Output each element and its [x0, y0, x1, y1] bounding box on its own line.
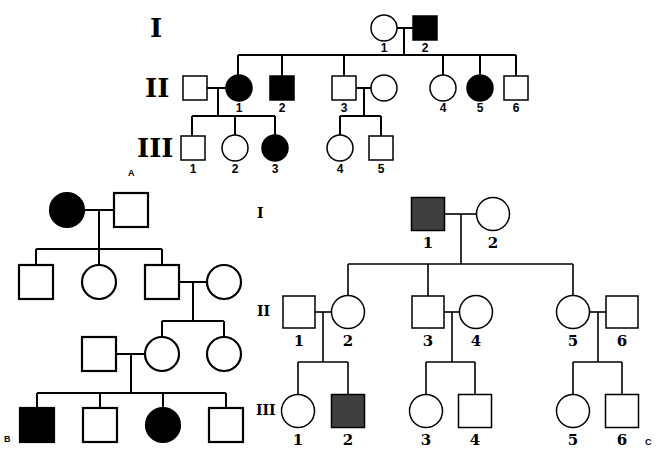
affected-female-circle	[146, 408, 180, 442]
unaffected-male-square	[332, 76, 356, 100]
unaffected-male-square	[183, 76, 207, 100]
individual-number: 6	[513, 101, 520, 115]
affected-male-square	[332, 395, 365, 428]
affected-female-circle	[467, 75, 493, 101]
generation-label: II	[257, 303, 270, 319]
unaffected-female-circle	[371, 15, 397, 41]
affected-female-circle	[50, 193, 84, 227]
unaffected-male-square	[283, 296, 315, 328]
unaffected-male-square	[606, 296, 638, 328]
individual-number: 3	[341, 101, 348, 115]
unaffected-female-circle	[477, 198, 510, 231]
unaffected-female-circle	[410, 395, 443, 428]
unaffected-male-square	[181, 136, 205, 160]
individual-number: 1	[293, 431, 303, 449]
unaffected-male-square	[369, 136, 393, 160]
panel-label: C	[645, 437, 652, 447]
generation-label: III	[256, 402, 276, 418]
unaffected-male-square	[504, 76, 528, 100]
individual-number: 4	[440, 101, 447, 115]
pedigree-panel-c: 12123456123456IIIIIIC	[256, 198, 652, 450]
unaffected-male-square	[83, 408, 117, 442]
individual-number: 5	[477, 101, 484, 115]
unaffected-male-square	[606, 395, 639, 428]
unaffected-female-circle	[430, 75, 456, 101]
generation-label: I	[257, 205, 264, 221]
affected-female-circle	[262, 135, 288, 161]
panel-label: B	[4, 434, 11, 444]
individual-number: 2	[343, 431, 353, 449]
generation-label: II	[145, 73, 169, 103]
individual-number: 1	[423, 234, 433, 252]
unaffected-female-circle	[207, 337, 241, 371]
affected-female-circle	[226, 75, 252, 101]
unaffected-female-circle	[557, 296, 590, 329]
unaffected-female-circle	[82, 265, 116, 299]
individual-number: 3	[423, 332, 433, 350]
unaffected-male-square	[209, 408, 243, 442]
individual-number: 3	[421, 431, 431, 449]
generation-label: III	[137, 133, 174, 163]
individual-number: 2	[488, 234, 498, 252]
unaffected-male-square	[114, 193, 148, 227]
unaffected-female-circle	[557, 395, 590, 428]
individual-number: 2	[343, 332, 353, 350]
unaffected-female-circle	[371, 75, 397, 101]
individual-number: 2	[279, 101, 286, 115]
affected-male-square	[270, 76, 294, 100]
generation-label: I	[150, 13, 162, 43]
unaffected-female-circle	[282, 395, 315, 428]
individual-number: 4	[470, 431, 480, 449]
unaffected-male-square	[145, 265, 179, 299]
individual-number: 1	[381, 41, 388, 55]
individual-number: 1	[236, 101, 243, 115]
individual-number: 2	[422, 41, 429, 55]
individual-number: 3	[272, 162, 279, 176]
affected-male-square	[412, 198, 445, 231]
individual-number: 4	[337, 162, 344, 176]
unaffected-female-circle	[207, 265, 241, 299]
individual-number: 6	[617, 431, 627, 449]
individual-number: 5	[568, 431, 578, 449]
unaffected-female-circle	[460, 296, 493, 329]
unaffected-female-circle	[145, 337, 179, 371]
unaffected-female-circle	[332, 296, 365, 329]
affected-male-square	[20, 408, 54, 442]
panel-label: A	[128, 168, 135, 178]
individual-number: 1	[190, 162, 197, 176]
pedigree-panel-b: B	[4, 193, 243, 444]
unaffected-female-circle	[327, 135, 353, 161]
unaffected-male-square	[19, 265, 53, 299]
unaffected-female-circle	[222, 135, 248, 161]
individual-number: 2	[232, 162, 239, 176]
individual-number: 6	[617, 332, 627, 350]
individual-number: 5	[568, 332, 578, 350]
individual-number: 4	[471, 332, 481, 350]
unaffected-male-square	[82, 337, 116, 371]
unaffected-male-square	[412, 296, 444, 328]
pedigree-figure: 1212345612345IIIIIIA B 12123456123456III…	[0, 0, 662, 455]
unaffected-male-square	[459, 395, 492, 428]
affected-male-square	[413, 16, 437, 40]
individual-number: 1	[294, 332, 304, 350]
individual-number: 5	[378, 162, 385, 176]
pedigree-panel-a: 1212345612345IIIIIIA	[128, 13, 528, 178]
